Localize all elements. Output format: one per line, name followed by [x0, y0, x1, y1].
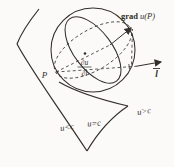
level-surface-fold-edge [59, 82, 128, 106]
gradient-label: gradu(P) [121, 11, 155, 21]
region-label-greater: u>c [136, 105, 151, 117]
gradient-figure: gradu(P) P ∂u ∂l l u<c u=c u>c [0, 0, 174, 167]
derivative-numerator: ∂u [81, 58, 89, 67]
direction-vector-arrow [136, 62, 161, 66]
point-label: P [41, 70, 48, 80]
level-surface-top-edge [17, 9, 39, 44]
region-label-less: u<c [59, 121, 74, 133]
gradient-label-prefix: grad [121, 11, 138, 21]
level-surface-right-edge [87, 106, 128, 151]
gradient-vector-arrow [110, 28, 131, 45]
great-circle-back-dashed [45, 10, 140, 89]
direction-label: l [155, 69, 158, 79]
gradient-label-argument: u(P) [140, 11, 155, 21]
sphere-center-dot [84, 52, 87, 55]
derivative-denominator: ∂l [82, 69, 88, 78]
chord-endpoint-tick [129, 64, 130, 70]
direction-chord-dashed [56, 66, 136, 72]
gradient-diagram-canvas: gradu(P) P ∂u ∂l l u<c u=c u>c [0, 0, 174, 167]
region-label-equal: u=c [87, 117, 102, 128]
